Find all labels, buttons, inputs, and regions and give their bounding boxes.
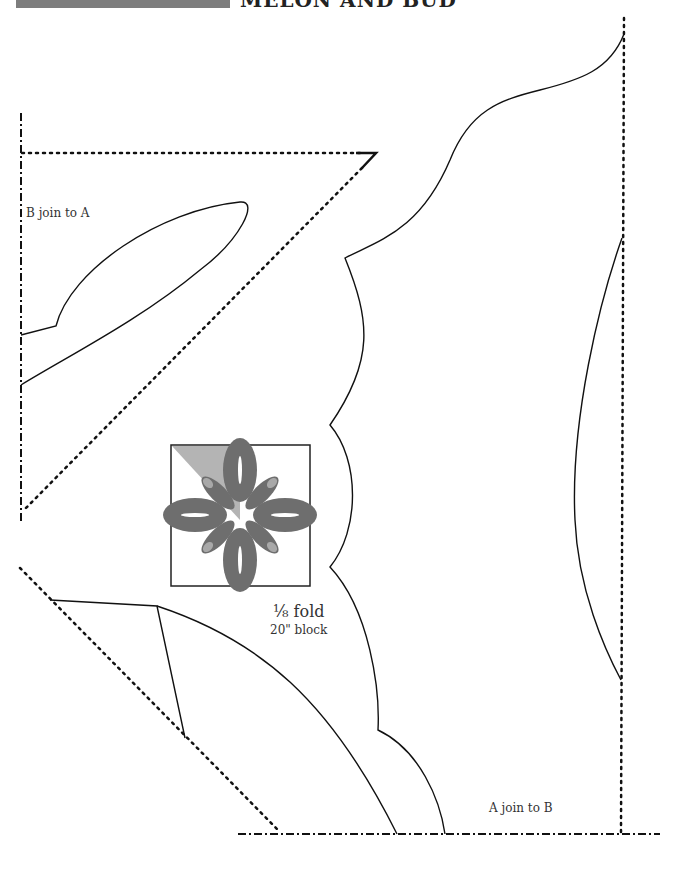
fold-label: ⅛ fold bbox=[273, 602, 325, 621]
quilt-pattern bbox=[0, 0, 675, 874]
corner-marker bbox=[356, 153, 376, 168]
diagonal-fold-line-lower bbox=[20, 568, 280, 832]
block-size-label: 20" block bbox=[270, 623, 327, 637]
block-thumbnail bbox=[163, 438, 317, 592]
leaf-cut-line bbox=[21, 202, 248, 385]
b-join-label: B join to A bbox=[26, 206, 90, 220]
right-fold-line bbox=[621, 18, 624, 832]
right-cut-line bbox=[574, 238, 622, 680]
a-join-label: A join to B bbox=[489, 801, 553, 815]
bud-cut-line-right bbox=[157, 606, 397, 834]
bud-cut-line-left bbox=[50, 600, 185, 738]
